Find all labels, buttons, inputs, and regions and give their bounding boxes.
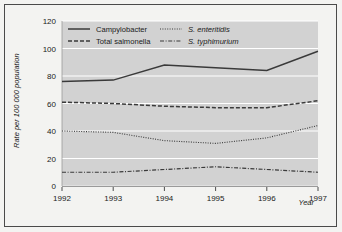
y-tick-label: 120 bbox=[43, 17, 57, 26]
y-axis-tick-labels: 020406080100120 bbox=[43, 17, 57, 191]
legend-label: S. typhimurium bbox=[188, 37, 239, 46]
x-tick-label: 1994 bbox=[156, 194, 174, 203]
legend-label: Total salmonella bbox=[96, 37, 151, 46]
x-tick-label: 1993 bbox=[104, 194, 122, 203]
y-tick-label: 40 bbox=[47, 127, 56, 136]
y-tick-label: 20 bbox=[47, 155, 56, 164]
x-axis-title: Year bbox=[299, 198, 315, 207]
legend-label: S. enteritidis bbox=[188, 25, 230, 34]
y-tick-label: 100 bbox=[43, 45, 57, 54]
figure-container: 020406080100120 199219931994199519961997… bbox=[0, 0, 342, 232]
y-axis-title: Rate per 100 000 population bbox=[12, 53, 21, 148]
y-tick-label: 60 bbox=[47, 100, 56, 109]
x-tick-label: 1992 bbox=[53, 194, 71, 203]
y-tick-label: 0 bbox=[52, 182, 57, 191]
x-tick-label: 1996 bbox=[258, 194, 276, 203]
x-tick-label: 1995 bbox=[207, 194, 225, 203]
legend-label: Campylobacter bbox=[96, 25, 148, 34]
x-axis-tickmarks bbox=[62, 187, 318, 191]
x-axis-tick-labels: 199219931994199519961997 bbox=[53, 194, 327, 203]
y-tick-label: 80 bbox=[47, 72, 56, 81]
line-chart: 020406080100120 199219931994199519961997… bbox=[0, 0, 342, 232]
